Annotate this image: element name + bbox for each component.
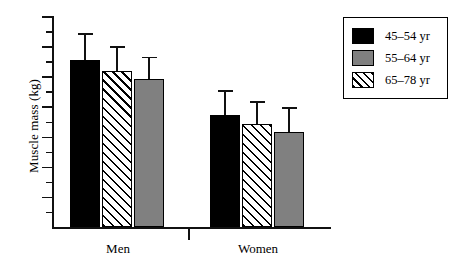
bar-slot [70,16,100,227]
legend-label: 45–54 yr [385,29,430,44]
x-axis-tick-label: Men [70,241,166,257]
error-bar-cap [78,33,93,35]
bar-group [70,16,166,227]
bar-group [210,16,306,227]
legend-swatch [352,72,374,88]
error-bar-cap [110,46,125,48]
y-axis-title: Muscle mass (kg) [26,46,42,206]
bar [102,71,132,227]
x-axis-line [52,227,331,229]
error-bar [288,109,290,132]
error-bar-cap [282,107,297,109]
legend-item: 45–54 yr [352,25,441,47]
plot-area [52,16,331,227]
bar-slot [210,16,240,227]
error-bar-cap [218,90,233,92]
bar-slot [102,16,132,227]
error-bar [84,35,86,60]
error-bar [256,103,258,124]
error-bar [116,48,118,71]
error-bar [224,92,226,115]
legend-item: 65–78 yr [352,69,441,91]
legend-swatch [352,50,374,66]
legend-label: 55–64 yr [385,51,430,66]
legend-label: 65–78 yr [385,73,430,88]
legend-swatch [352,28,374,44]
bar [70,60,100,227]
bar-slot [242,16,272,227]
bar-slot [134,16,164,227]
x-axis-group-separator-tick [188,229,190,240]
error-bar-cap [142,57,157,59]
x-axis-tick-label: Women [210,241,306,257]
bar [242,124,272,227]
bar [274,132,304,227]
bar [210,115,240,227]
chart-figure: Muscle mass (kg) MenWomen 45–54 yr55–64 … [0,0,457,269]
error-bar-cap [250,101,265,103]
chart-legend: 45–54 yr55–64 yr65–78 yr [343,17,448,99]
bar [134,79,164,227]
bar-slot [274,16,304,227]
legend-item: 55–64 yr [352,47,441,69]
error-bar [148,58,150,79]
